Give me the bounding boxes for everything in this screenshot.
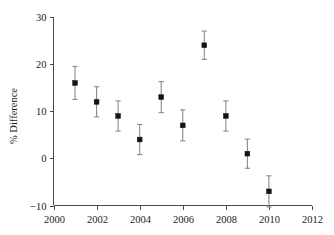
data-marker: [223, 114, 228, 119]
data-marker: [267, 189, 272, 194]
x-tick-label: 2004: [130, 214, 152, 225]
data-marker: [116, 114, 121, 119]
data-marker: [94, 99, 99, 104]
y-tick-label: 30: [36, 12, 47, 23]
y-tick-label: 10: [36, 106, 47, 117]
x-tick-label: 2000: [44, 214, 65, 225]
chart-figure: −100102030 2000200220042006200820102012 …: [0, 0, 334, 235]
y-tick-label: 20: [36, 59, 47, 70]
data-marker: [73, 81, 78, 86]
data-marker: [180, 123, 185, 128]
data-marker: [202, 43, 207, 48]
data-marker: [245, 151, 250, 156]
chart-background: [0, 0, 334, 235]
x-tick-label: 2006: [173, 214, 194, 225]
y-tick-label: 0: [41, 153, 46, 164]
x-tick-label: 2010: [259, 214, 280, 225]
data-marker: [159, 95, 164, 100]
x-tick-label: 2002: [87, 214, 108, 225]
x-tick-label: 2008: [216, 214, 237, 225]
scatter-plot-with-error-bars: −100102030 2000200220042006200820102012 …: [0, 0, 334, 235]
data-marker: [137, 137, 142, 142]
y-tick-label: −10: [30, 201, 46, 212]
y-axis-title: % Difference: [8, 88, 19, 144]
x-tick-label: 2012: [302, 214, 323, 225]
